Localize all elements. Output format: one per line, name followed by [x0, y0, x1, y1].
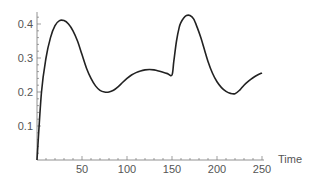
- x-tick-label: 100: [118, 163, 136, 175]
- ticks: [37, 17, 262, 160]
- x-tick-label: 250: [253, 163, 271, 175]
- y-tick-label: 0.2: [18, 86, 33, 98]
- y-tick-label: 0.3: [18, 52, 33, 64]
- x-tick-label: 50: [76, 163, 88, 175]
- line-chart: 501001502002500.10.20.30.4 Time: [0, 0, 316, 186]
- y-tick-label: 0.4: [18, 18, 33, 30]
- x-tick-label: 150: [163, 163, 181, 175]
- tick-labels: 501001502002500.10.20.30.4: [18, 18, 271, 175]
- axes: [37, 12, 264, 160]
- x-axis-label: Time: [278, 153, 302, 165]
- y-tick-label: 0.1: [18, 120, 33, 132]
- series-group: [37, 15, 262, 160]
- x-tick-label: 200: [208, 163, 226, 175]
- series-line: [37, 15, 262, 160]
